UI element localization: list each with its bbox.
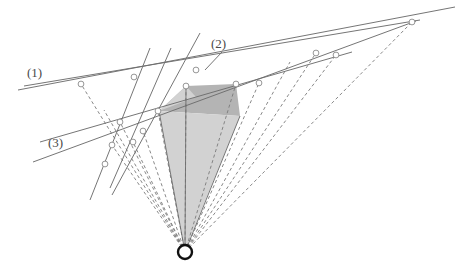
figure-root: (1)(2)(3) [0,0,459,274]
node-l [109,142,115,148]
node-i [155,108,161,114]
label-2: (2) [211,36,226,51]
apex-node [178,245,192,259]
node-h [233,81,239,87]
node-a [78,81,84,87]
node-o [140,128,146,134]
node-e [333,52,339,58]
node-j [117,119,123,125]
node-c [193,67,199,73]
label-1: (1) [27,65,42,80]
node-m [102,161,108,167]
node-b [131,74,137,80]
node-k [130,139,136,145]
label-3: (3) [48,135,63,150]
node-n [256,80,262,86]
node-g [183,83,189,89]
geometry-canvas: (1)(2)(3) [0,0,459,274]
node-d [313,50,319,56]
apex-point-group [178,245,192,259]
node-f [409,19,415,25]
